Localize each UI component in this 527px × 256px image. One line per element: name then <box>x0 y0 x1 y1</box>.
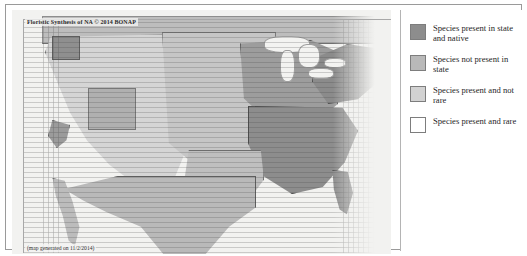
lake-huron <box>298 44 320 68</box>
legend-item-not-present[interactable]: Species not present in state <box>410 54 527 74</box>
legend-label-not-present: Species not present in state <box>433 54 525 74</box>
legend-label-present-native: Species present in state and native <box>433 23 525 43</box>
bonap-distribution-map-figure: Floristic Synthesis of NA © 2014 BONAP (… <box>0 0 527 256</box>
lake-michigan <box>280 50 295 82</box>
legend-item-present-not-rare[interactable]: Species present and not rare <box>410 85 527 105</box>
swatch-not-present <box>410 55 426 71</box>
figure-frame: Floristic Synthesis of NA © 2014 BONAP (… <box>5 4 522 250</box>
legend-panel: Species present in state and native Spec… <box>400 10 527 251</box>
legend-label-present-not-rare: Species present and not rare <box>433 85 525 105</box>
legend-list: Species present in state and native Spec… <box>410 23 527 144</box>
legend-label-present-rare: Species present and rare <box>433 116 516 126</box>
map-panel[interactable]: Floristic Synthesis of NA © 2014 BONAP (… <box>12 10 391 254</box>
map-generated-caption: (map generated on 11/2/2014) <box>25 244 96 252</box>
swatch-present-not-rare <box>410 86 426 102</box>
legend-item-present-rare[interactable]: Species present and rare <box>410 116 527 133</box>
lake-ontario <box>324 58 346 68</box>
lake-erie <box>308 68 334 79</box>
swatch-present-rare <box>410 117 426 133</box>
swatch-present-native <box>410 24 426 40</box>
region-pacific-northwest <box>52 36 80 60</box>
region-great-basin <box>88 88 136 130</box>
legend-item-present-native[interactable]: Species present in state and native <box>410 23 527 43</box>
map-title-attribution: Floristic Synthesis of NA © 2014 BONAP <box>25 18 138 26</box>
